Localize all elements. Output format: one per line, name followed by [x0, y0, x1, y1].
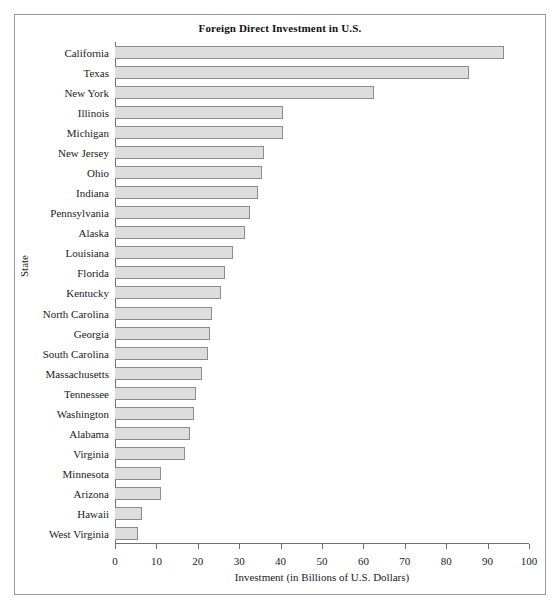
bar	[115, 467, 161, 480]
category-label: Tennessee	[64, 389, 109, 400]
category-label: Illinois	[78, 108, 109, 119]
bar	[115, 66, 469, 79]
x-tick	[529, 544, 530, 549]
bar	[115, 126, 283, 139]
bar-row: Massachusetts	[115, 363, 529, 383]
x-tick	[488, 544, 489, 549]
x-tick-label: 80	[441, 555, 452, 567]
x-tick-label: 20	[192, 555, 203, 567]
bar-row: Louisiana	[115, 243, 529, 263]
bar-row: Illinois	[115, 102, 529, 122]
x-tick-label: 60	[358, 555, 369, 567]
x-tick	[115, 544, 116, 549]
bar	[115, 427, 190, 440]
bar-row: South Carolina	[115, 343, 529, 363]
figure-frame: Foreign Direct Investment in U.S. State …	[14, 14, 546, 595]
y-axis-title: State	[18, 255, 30, 277]
x-tick	[446, 544, 447, 549]
x-tick-label: 10	[151, 555, 162, 567]
bar-row: Pennsylvania	[115, 203, 529, 223]
bar	[115, 407, 194, 420]
x-tick	[322, 544, 323, 549]
plot-area: 0102030405060708090100 CaliforniaTexasNe…	[115, 42, 529, 544]
bar-row: North Carolina	[115, 303, 529, 323]
category-label: New York	[64, 88, 109, 99]
category-label: Virginia	[73, 449, 109, 460]
bar	[115, 327, 210, 340]
x-tick-label: 0	[112, 555, 118, 567]
category-label: Michigan	[67, 128, 109, 139]
bar	[115, 206, 250, 219]
bar-row: Washington	[115, 403, 529, 423]
bar	[115, 246, 233, 259]
bar	[115, 367, 202, 380]
x-tick	[156, 544, 157, 549]
bar	[115, 186, 258, 199]
category-label: Florida	[77, 268, 109, 279]
category-label: Alabama	[69, 429, 109, 440]
chart-title: Foreign Direct Investment in U.S.	[15, 22, 545, 34]
category-label: Minnesota	[63, 469, 109, 480]
category-label: Louisiana	[66, 248, 109, 259]
x-tick-label: 70	[399, 555, 410, 567]
x-axis-title: Investment (in Billions of U.S. Dollars)	[115, 571, 529, 583]
bar	[115, 307, 212, 320]
bar-row: Georgia	[115, 323, 529, 343]
bar-row: Ohio	[115, 162, 529, 182]
category-label: Hawaii	[77, 509, 109, 520]
bar	[115, 46, 504, 59]
bar	[115, 487, 161, 500]
x-tick-label: 90	[482, 555, 493, 567]
bar	[115, 387, 196, 400]
category-label: North Carolina	[43, 309, 109, 320]
bar-row: Florida	[115, 263, 529, 283]
bar	[115, 447, 185, 460]
bar	[115, 527, 138, 540]
bar-row: New York	[115, 82, 529, 102]
category-label: Texas	[84, 68, 110, 79]
bar-row: Kentucky	[115, 283, 529, 303]
category-label: Ohio	[87, 168, 109, 179]
category-label: Washington	[57, 409, 109, 420]
bar	[115, 347, 208, 360]
bar-row: Alabama	[115, 424, 529, 444]
x-tick-label: 30	[234, 555, 245, 567]
bar-row: Minnesota	[115, 464, 529, 484]
x-tick	[198, 544, 199, 549]
bar-row: Virginia	[115, 444, 529, 464]
bar-row: Michigan	[115, 122, 529, 142]
category-label: New Jersey	[58, 148, 109, 159]
bar	[115, 146, 264, 159]
x-tick-label: 40	[275, 555, 286, 567]
bar-row: California	[115, 42, 529, 62]
category-label: Indiana	[76, 188, 109, 199]
bar	[115, 266, 225, 279]
bar-row: Indiana	[115, 183, 529, 203]
x-tick-label: 100	[521, 555, 538, 567]
category-label: South Carolina	[43, 349, 109, 360]
bar	[115, 507, 142, 520]
bar	[115, 106, 283, 119]
bar-row: Texas	[115, 62, 529, 82]
category-label: Pennsylvania	[50, 208, 109, 219]
bar-row: New Jersey	[115, 142, 529, 162]
bar-row: West Virginia	[115, 524, 529, 544]
bar-row: Tennessee	[115, 383, 529, 403]
category-label: Georgia	[74, 329, 109, 340]
x-tick	[405, 544, 406, 549]
category-label: Alaska	[78, 228, 109, 239]
bar	[115, 286, 221, 299]
category-label: Massachusetts	[45, 369, 109, 380]
x-tick	[239, 544, 240, 549]
category-label: Arizona	[74, 489, 109, 500]
category-label: Kentucky	[66, 288, 109, 299]
chart-page: Foreign Direct Investment in U.S. State …	[0, 0, 557, 609]
category-label: California	[64, 48, 109, 59]
bar	[115, 226, 245, 239]
bar	[115, 166, 262, 179]
x-tick-label: 50	[317, 555, 328, 567]
x-tick	[363, 544, 364, 549]
x-tick	[281, 544, 282, 549]
bar	[115, 86, 374, 99]
bar-row: Alaska	[115, 223, 529, 243]
